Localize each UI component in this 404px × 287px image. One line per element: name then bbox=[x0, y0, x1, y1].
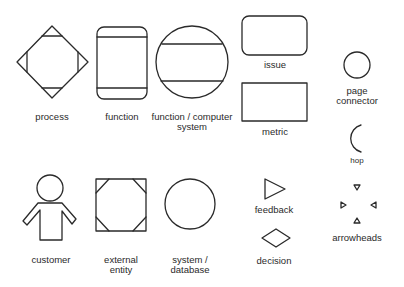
label-line: customer bbox=[31, 255, 70, 265]
label-customer: customer bbox=[31, 255, 70, 265]
process-symbol-icon bbox=[17, 26, 88, 98]
metric-symbol-icon bbox=[242, 83, 307, 121]
label-system-database: system / database bbox=[170, 255, 209, 275]
label-feedback: feedback bbox=[255, 205, 294, 215]
function-computer-system-symbol-icon bbox=[156, 26, 228, 98]
label-line: database bbox=[170, 265, 209, 275]
feedback-symbol-icon bbox=[265, 179, 285, 199]
label-function-computer-system: function / computer system bbox=[152, 112, 233, 132]
label-process: process bbox=[35, 112, 68, 122]
label-line: system bbox=[152, 122, 233, 132]
system-database-symbol-icon bbox=[165, 179, 215, 229]
label-line: entity bbox=[104, 265, 138, 275]
label-line: hop bbox=[350, 156, 363, 166]
label-arrowheads: arrowheads bbox=[332, 233, 382, 243]
arrowhead-down-icon bbox=[354, 185, 360, 190]
arrowhead-up-icon bbox=[354, 218, 360, 223]
page-connector-symbol-icon bbox=[344, 52, 370, 78]
label-page-connector: page connector bbox=[336, 86, 378, 106]
decision-symbol-icon bbox=[262, 229, 290, 247]
hop-symbol-icon bbox=[351, 125, 361, 152]
external-entity-symbol-icon bbox=[96, 179, 146, 231]
label-line: arrowheads bbox=[332, 233, 382, 243]
label-line: connector bbox=[336, 96, 378, 106]
label-line: metric bbox=[262, 127, 288, 137]
label-function: function bbox=[105, 112, 138, 122]
issue-symbol-icon bbox=[242, 16, 307, 55]
label-metric: metric bbox=[262, 127, 288, 137]
diagram-svg bbox=[0, 0, 404, 287]
arrowhead-left-icon bbox=[371, 202, 376, 208]
label-line: feedback bbox=[255, 205, 294, 215]
function-symbol-icon bbox=[97, 27, 147, 99]
label-line: function bbox=[105, 112, 138, 122]
label-line: decision bbox=[257, 256, 292, 266]
label-hop: hop bbox=[350, 156, 363, 166]
arrowhead-right-icon bbox=[341, 202, 346, 208]
label-issue: issue bbox=[264, 60, 286, 70]
label-line: process bbox=[35, 112, 68, 122]
customer-symbol-icon bbox=[23, 175, 76, 240]
symbol-legend-diagram: process function function / computer sys… bbox=[0, 0, 404, 287]
label-line: issue bbox=[264, 60, 286, 70]
label-external-entity: external entity bbox=[104, 255, 138, 275]
label-decision: decision bbox=[257, 256, 292, 266]
arrowheads-symbol-icon bbox=[341, 185, 376, 223]
